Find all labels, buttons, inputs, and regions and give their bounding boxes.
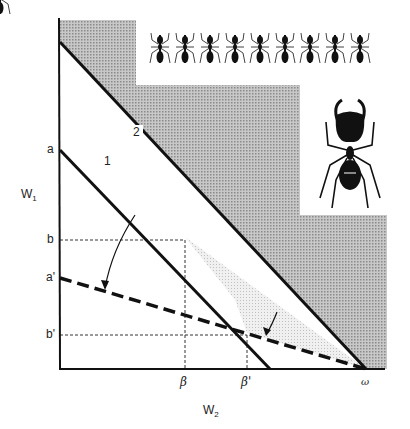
y-axis [59, 18, 60, 370]
y-axis-label-text: W [21, 187, 32, 201]
line-1-label: 1 [104, 155, 111, 167]
diagram-canvas [0, 0, 410, 429]
y-axis-label: W1 [21, 188, 37, 203]
x-axis-label: W2 [203, 404, 219, 419]
shaded-region-above-line-2 [60, 20, 387, 369]
arrow-icon [105, 215, 135, 288]
arrowhead-icon [101, 280, 109, 290]
ant-row-icon [0, 0, 370, 63]
x-tick-beta-prime: β' [241, 376, 251, 388]
y-axis-label-sub: 1 [32, 194, 36, 203]
y-tick-b-prime: b' [46, 328, 55, 340]
line-2-label: 2 [130, 125, 143, 139]
x-axis-label-text: W [203, 403, 214, 417]
y-tick-a-prime: a' [46, 271, 55, 283]
y-tick-a: a [47, 143, 54, 155]
x-axis-label-sub: 2 [214, 410, 218, 419]
y-tick-b: b [47, 233, 54, 245]
x-tick-beta: β [180, 376, 187, 388]
large-ant-icon [320, 100, 380, 208]
x-tick-omega: ω [361, 377, 369, 387]
